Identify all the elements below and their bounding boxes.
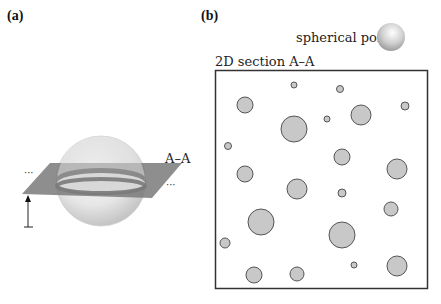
pore-section	[237, 97, 253, 113]
ellipsis-left: ···	[24, 167, 34, 178]
pore-section	[401, 102, 409, 110]
legend-label: spherical pore	[296, 30, 391, 45]
pore-section	[387, 256, 407, 276]
pore-section	[290, 267, 304, 281]
arrow-head-icon	[25, 195, 31, 202]
pore-section	[338, 189, 346, 197]
pore-section	[281, 116, 307, 142]
pore-section	[351, 105, 371, 125]
pore-section	[384, 202, 398, 216]
legend: spherical pore	[296, 23, 405, 51]
ellipsis-right: ···	[166, 179, 176, 190]
pore-section	[334, 149, 350, 165]
pore-section	[237, 166, 253, 182]
pore-section	[246, 267, 262, 283]
pore-section	[287, 179, 307, 199]
pore-group	[220, 82, 409, 283]
plane-label: A–A	[164, 151, 191, 166]
pore-section	[220, 238, 230, 248]
section-title: 2D section A–A	[215, 54, 315, 69]
sphere-diagram: A–A ··· ···	[22, 136, 191, 227]
pore-section	[329, 222, 355, 248]
pore-section	[324, 116, 330, 122]
pore-section	[337, 86, 344, 93]
pore-section	[387, 159, 407, 179]
pore-section	[248, 209, 274, 235]
pore-section	[291, 82, 297, 88]
pore-section	[351, 262, 357, 268]
legend-sphere-icon	[377, 23, 405, 51]
pore-section	[225, 143, 232, 150]
